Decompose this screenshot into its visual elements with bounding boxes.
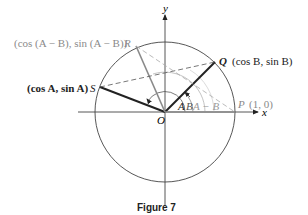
point-R-label: R <box>123 37 131 49</box>
point-P-coords: (1, 0) <box>249 98 273 111</box>
point-Q-label: Q <box>219 55 227 67</box>
unit-circle-diagram: y x O P (1, 0) Q (cos B, sin B) (cos (A … <box>0 0 308 215</box>
y-axis-label: y <box>162 2 168 14</box>
chord-SQ <box>100 62 215 87</box>
angle-label-A: A <box>177 100 185 112</box>
angle-arrow-A <box>147 99 150 103</box>
point-P-label: P <box>237 98 245 110</box>
point-S-coords: (cos A, sin A) <box>27 82 88 95</box>
origin-label: O <box>157 114 165 126</box>
point-S-label: S <box>90 82 96 94</box>
point-R-coords: (cos (A − B), sin (A − B)) <box>14 37 128 50</box>
figure-caption: Figure 7 <box>137 202 176 213</box>
angle-label-A-minus-B: A − B <box>192 100 219 112</box>
angle-label-B: B <box>186 100 193 112</box>
point-Q-coords: (cos B, sin B) <box>232 55 293 68</box>
